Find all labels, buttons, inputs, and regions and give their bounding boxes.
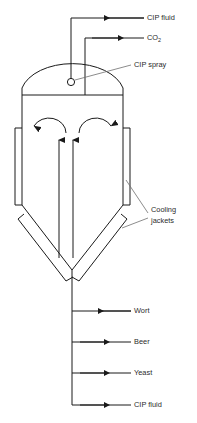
left-side-cooling-jacket — [15, 128, 22, 205]
label-co2-main: CO — [147, 33, 158, 42]
right-side-cooling-jacket — [123, 128, 130, 205]
right-cone-cooling-jacket — [72, 214, 127, 281]
circulation-arrows — [34, 118, 111, 258]
cone-left-wall — [22, 205, 72, 270]
cooling-jackets-leader-line-cone — [122, 218, 148, 228]
label-wort: Wort — [134, 306, 149, 315]
fermenter-diagram: CIP fluid CO2 CIP spray Cooling jackets … — [0, 0, 197, 423]
spray-ball-icon — [67, 78, 74, 85]
fermenter-drawing-canvas: CIP fluid CO2 CIP spray Cooling jackets … — [0, 0, 197, 423]
label-yeast: Yeast — [134, 368, 152, 377]
label-co2-vent: CO2 — [147, 33, 161, 43]
circulation-arc-right — [79, 118, 111, 133]
label-beer: Beer — [134, 337, 150, 346]
label-cip-fluid-bottom: CIP fluid — [134, 400, 162, 409]
cone-right-wall — [72, 205, 123, 270]
label-cooling-jackets-line1: Cooling — [151, 205, 176, 214]
label-cip-spray: CIP spray — [134, 60, 167, 69]
label-co2-subscript: 2 — [158, 37, 161, 43]
cooling-jackets-leader-line-side — [126, 180, 148, 213]
cip-spray-leader-line — [75, 65, 131, 80]
label-cip-fluid-top: CIP fluid — [147, 13, 175, 22]
left-cone-cooling-jacket — [18, 214, 73, 281]
circulation-arc-left — [34, 118, 66, 133]
label-cooling-jackets-line2: jackets — [150, 216, 174, 225]
